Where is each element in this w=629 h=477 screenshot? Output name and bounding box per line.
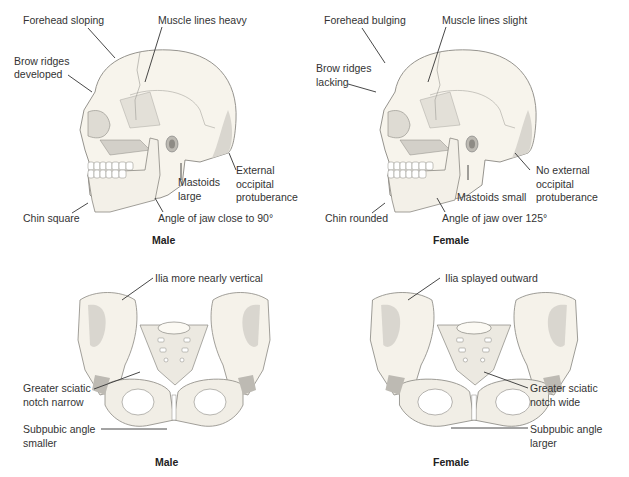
female-chin-label: Chin rounded bbox=[325, 212, 388, 225]
female-brow-ridges-label-2: lacking bbox=[316, 76, 349, 89]
female-forehead-label: Forehead bulging bbox=[324, 14, 406, 27]
male-skull-caption: Male bbox=[152, 234, 175, 246]
male-occipital-label-2: occipital bbox=[236, 178, 274, 191]
female-sciatic-notch-label-2: notch wide bbox=[530, 396, 580, 409]
female-subpubic-angle-label-1: Subpubic angle bbox=[530, 423, 602, 436]
male-pelvis-caption: Male bbox=[155, 456, 178, 468]
female-occipital-label-2: occipital bbox=[536, 178, 574, 191]
male-muscle-lines-label: Muscle lines heavy bbox=[158, 14, 247, 27]
female-muscle-lines-label: Muscle lines slight bbox=[442, 14, 527, 27]
female-ilia-label: Ilia splayed outward bbox=[445, 272, 538, 285]
male-occipital-label-1: External bbox=[236, 164, 275, 177]
female-occipital-label-3: protuberance bbox=[536, 191, 598, 204]
male-mastoids-label-2: large bbox=[178, 190, 201, 203]
male-forehead-label: Forehead sloping bbox=[23, 14, 104, 27]
male-brow-ridges-label-1: Brow ridges bbox=[14, 55, 69, 68]
male-subpubic-angle-label-1: Subpubic angle bbox=[23, 423, 95, 436]
female-skull-caption: Female bbox=[433, 234, 469, 246]
female-sciatic-notch-label-1: Greater sciatic bbox=[530, 382, 598, 395]
male-chin-label: Chin square bbox=[23, 212, 80, 225]
female-subpubic-angle-label-2: larger bbox=[530, 437, 557, 450]
female-brow-ridges-label-1: Brow ridges bbox=[316, 62, 371, 75]
male-sciatic-notch-label-2: notch narrow bbox=[23, 396, 84, 409]
male-ilia-label: Ilia more nearly vertical bbox=[155, 272, 263, 285]
male-brow-ridges-label-2: developed bbox=[14, 68, 62, 81]
male-mastoids-label-1: Mastoids bbox=[178, 176, 220, 189]
male-jaw-angle-label: Angle of jaw close to 90° bbox=[158, 212, 273, 225]
female-mastoids-label: Mastoids small bbox=[457, 191, 526, 204]
female-skull-illustration bbox=[380, 50, 536, 212]
male-subpubic-angle-label-2: smaller bbox=[23, 437, 57, 450]
male-occipital-label-3: protuberance bbox=[236, 191, 298, 204]
female-pelvis-caption: Female bbox=[433, 456, 469, 468]
female-jaw-angle-label: Angle of jaw over 125° bbox=[442, 212, 547, 225]
female-occipital-label-1: No external bbox=[536, 164, 590, 177]
male-sciatic-notch-label-1: Greater sciatic bbox=[23, 382, 91, 395]
male-pelvis-illustration bbox=[78, 293, 270, 427]
